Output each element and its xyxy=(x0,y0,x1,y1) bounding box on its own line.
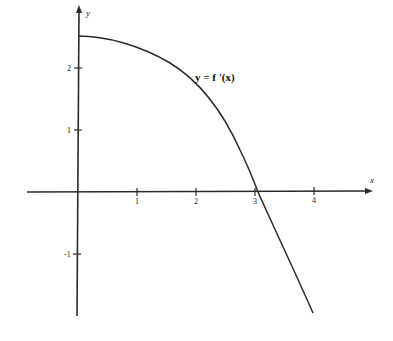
y-tick-label-1: 1 xyxy=(67,126,71,135)
y-axis-label: y xyxy=(85,8,90,18)
x-tick-label-2: 2 xyxy=(194,197,198,206)
x-tick-label-1: 1 xyxy=(135,197,139,206)
x-tick-label-3: 3 xyxy=(253,197,257,206)
y-axis-arrow-icon xyxy=(76,5,82,13)
y-tick-label-2: 2 xyxy=(67,64,71,73)
curve-label: y = f '(x) xyxy=(195,71,235,84)
y-axis xyxy=(77,11,79,316)
x-tick-label-4: 4 xyxy=(312,196,316,205)
x-axis-label: x xyxy=(369,175,374,185)
derivative-graph: x y 1 2 3 4 2 1 -1 y = f '(x) xyxy=(0,0,393,341)
x-axis-arrow-icon xyxy=(365,188,373,194)
y-tick-label-neg1: -1 xyxy=(64,250,71,259)
